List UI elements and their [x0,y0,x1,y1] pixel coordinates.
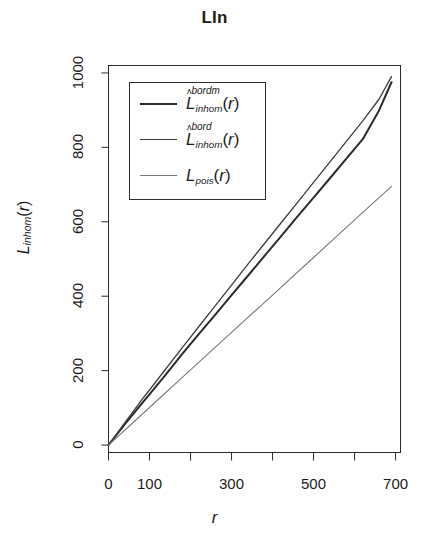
y-axis-title: Linhom(r) [15,157,34,297]
series-line-2 [109,186,392,445]
legend-label-0: ʌbordmLinhom(r) [186,87,239,121]
chart-legend: ʌbordmLinhom(r)ʌbordLinhom(r)Lpois(r) [129,82,266,200]
legend-item-2: Lpois(r) [130,159,267,193]
legend-subscript-0: inhom [195,103,222,114]
y-tick-label-600: 600 [68,197,85,245]
legend-item-1: ʌbordLinhom(r) [130,123,267,157]
legend-superscript-1: ʌbord [187,121,212,132]
legend-label-2: Lpois(r) [186,159,231,193]
y-tick-label-1000: 1000 [68,48,85,96]
y-axis-title-sub: inhom [21,217,33,246]
x-tick-label-0: 0 [86,475,132,492]
legend-label-1: ʌbordLinhom(r) [186,123,239,157]
x-tick-label-700: 700 [373,475,419,492]
legend-superscript-0: ʌbordm [187,85,220,96]
chart-title: LIn [0,8,429,28]
y-tick-label-400: 400 [68,272,85,320]
x-tick-label-500: 500 [291,475,337,492]
y-axis-title-base: L [15,245,32,254]
y-tick-label-0: 0 [68,421,85,469]
legend-arg-0: (r) [222,94,239,113]
chart-container: LIn 02004006008001000 0100300500700 Linh… [0,0,429,554]
legend-swatch-1 [140,139,177,140]
y-axis-title-arg: (r) [15,201,32,217]
legend-swatch-2 [140,175,177,176]
x-tick-label-300: 300 [209,475,255,492]
legend-item-0: ʌbordmLinhom(r) [130,87,267,121]
legend-arg-2: (r) [214,166,231,185]
legend-subscript-1: inhom [195,139,222,150]
legend-arg-1: (r) [222,130,239,149]
x-tick-label-100: 100 [127,475,173,492]
y-tick-label-800: 800 [68,123,85,171]
x-axis-title: r [0,508,429,528]
legend-subscript-2: pois [195,175,213,186]
y-tick-label-200: 200 [68,346,85,394]
legend-swatch-0 [140,103,177,105]
